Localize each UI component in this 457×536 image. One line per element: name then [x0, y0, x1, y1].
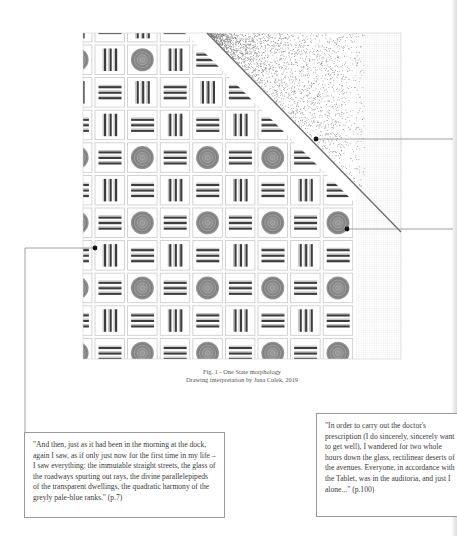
horizontal-bars-cell	[128, 175, 158, 205]
vertical-bars-cell	[62, 78, 92, 108]
concentric-circle-cell	[128, 338, 158, 368]
figure-content	[62, 12, 401, 368]
concentric-circle-cell	[258, 273, 288, 303]
horizontal-bars-cell	[62, 306, 92, 336]
vertical-bars-cell	[160, 241, 190, 271]
horizontal-bars-cell	[258, 241, 288, 271]
horizontal-bars-cell	[225, 143, 255, 173]
horizontal-bars-cell	[258, 175, 288, 205]
horizontal-bars-cell	[95, 338, 125, 368]
horizontal-bars-cell	[160, 78, 190, 108]
horizontal-bars-cell	[62, 241, 92, 271]
horizontal-bars-cell	[291, 338, 321, 368]
horizontal-bars-cell	[95, 208, 125, 238]
horizontal-bars-cell	[95, 12, 125, 42]
horizontal-bars-cell	[128, 306, 158, 336]
concentric-circle-cell	[258, 208, 288, 238]
concentric-circle-cell	[258, 143, 288, 173]
vertical-bars-cell	[160, 45, 190, 75]
horizontal-bars-cell	[160, 338, 190, 368]
horizontal-bars-cell	[160, 273, 190, 303]
vertical-bars-cell	[193, 78, 223, 108]
concentric-circle-cell	[128, 273, 158, 303]
quote-text-left: "And then, just as it had been in the mo…	[33, 440, 216, 504]
concentric-circle-cell	[62, 45, 92, 75]
horizontal-bars-cell	[95, 143, 125, 173]
vertical-bars-cell	[62, 12, 92, 42]
horizontal-bars-cell	[95, 273, 125, 303]
horizontal-bars-cell	[291, 273, 321, 303]
vertical-bars-cell	[291, 175, 321, 205]
annotation-dot-icon	[93, 246, 98, 251]
concentric-circle-cell	[62, 208, 92, 238]
concentric-circle-cell	[258, 338, 288, 368]
vertical-bars-cell	[95, 241, 125, 271]
horizontal-bars-cell	[62, 175, 92, 205]
horizontal-bars-cell	[193, 175, 223, 205]
annotation-dot-icon	[314, 137, 319, 142]
concentric-circle-cell	[323, 273, 353, 303]
horizontal-bars-cell	[323, 241, 353, 271]
concentric-circle-cell	[128, 143, 158, 173]
vertical-bars-cell	[95, 175, 125, 205]
vertical-bars-cell	[160, 175, 190, 205]
horizontal-bars-cell	[291, 208, 321, 238]
vertical-bars-cell	[291, 241, 321, 271]
concentric-circle-cell	[323, 338, 353, 368]
horizontal-bars-cell	[323, 306, 353, 336]
concentric-circle-cell	[128, 45, 158, 75]
horizontal-bars-cell	[225, 208, 255, 238]
vertical-bars-cell	[95, 45, 125, 75]
concentric-circle-cell	[193, 143, 223, 173]
horizontal-bars-cell	[193, 110, 223, 140]
vertical-bars-cell	[225, 241, 255, 271]
vertical-bars-cell	[225, 110, 255, 140]
quote-box-right: "In order to carry out the doctor's pres…	[316, 413, 457, 517]
vertical-bars-cell	[95, 306, 125, 336]
concentric-circle-cell	[323, 208, 353, 238]
vertical-bars-cell	[128, 12, 158, 42]
vertical-bars-cell	[160, 306, 190, 336]
vertical-bars-cell	[128, 78, 158, 108]
horizontal-bars-cell	[62, 110, 92, 140]
concentric-circle-cell	[193, 338, 223, 368]
quote-text-right: "In order to carry out the doctor's pres…	[325, 421, 457, 495]
annotation-dot-icon	[345, 227, 350, 232]
horizontal-bars-cell	[193, 241, 223, 271]
concentric-circle-cell	[62, 338, 92, 368]
horizontal-bars-cell	[160, 12, 190, 42]
vertical-bars-cell	[160, 110, 190, 140]
caption-title: Fig. 1 - One State morphology	[83, 368, 401, 376]
caption-credit: Drawing interpretation by Jana Culek, 20…	[83, 376, 401, 384]
horizontal-bars-cell	[128, 110, 158, 140]
concentric-circle-cell	[193, 273, 223, 303]
concentric-circle-cell	[128, 208, 158, 238]
fine-grid-strip	[356, 33, 401, 359]
horizontal-bars-cell	[225, 273, 255, 303]
horizontal-bars-cell	[95, 78, 125, 108]
horizontal-bars-cell	[128, 241, 158, 271]
figure-caption: Fig. 1 - One State morphology Drawing in…	[83, 368, 401, 384]
horizontal-bars-cell	[193, 306, 223, 336]
vertical-bars-cell	[225, 306, 255, 336]
horizontal-bars-cell	[160, 143, 190, 173]
concentric-circle-cell	[62, 273, 92, 303]
concentric-circle-cell	[62, 143, 92, 173]
concentric-circle-cell	[193, 208, 223, 238]
horizontal-bars-cell	[225, 338, 255, 368]
vertical-bars-cell	[225, 175, 255, 205]
quote-box-left: "And then, just as it had been in the mo…	[24, 432, 225, 518]
horizontal-bars-cell	[160, 208, 190, 238]
vertical-bars-cell	[291, 306, 321, 336]
horizontal-bars-cell	[258, 306, 288, 336]
vertical-bars-cell	[95, 110, 125, 140]
